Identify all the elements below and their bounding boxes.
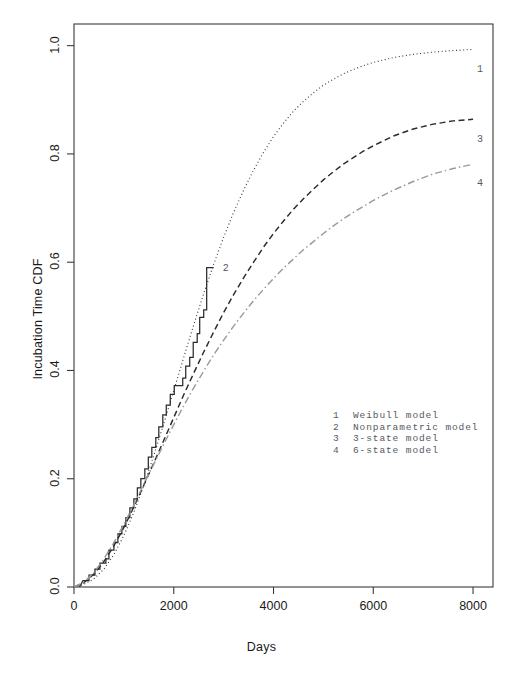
plot-frame: [74, 24, 493, 587]
y-tick-label: 0.4: [48, 339, 62, 399]
y-tick-label: 0.2: [48, 448, 62, 508]
legend-label: Weibull model: [353, 410, 439, 421]
curve-tag-2: 2: [223, 263, 229, 274]
y-tick-label: 0.8: [48, 123, 62, 183]
series-line-3: [74, 119, 473, 587]
y-tick-label: 0.0: [48, 556, 62, 616]
x-tick-label: 4000: [244, 599, 304, 613]
y-tick-label: 1.0: [48, 15, 62, 75]
curve-tag-3: 3: [477, 134, 483, 145]
series-line-4: [74, 164, 473, 587]
plot-canvas: [0, 0, 523, 674]
x-axis-label: Days: [0, 640, 523, 654]
legend-entry: 1Weibull model: [333, 410, 478, 422]
legend: 1Weibull model2Nonparametric model33-sta…: [333, 410, 478, 456]
x-tick-label: 8000: [443, 599, 503, 613]
legend-key: 1: [333, 410, 353, 422]
curve-tag-4: 4: [477, 178, 483, 189]
legend-key: 4: [333, 445, 353, 457]
legend-entry: 2Nonparametric model: [333, 422, 478, 434]
y-tick-label: 0.6: [48, 231, 62, 291]
x-tick-label: 2000: [144, 599, 204, 613]
curve-tag-1: 1: [477, 64, 483, 75]
legend-key: 2: [333, 422, 353, 434]
legend-entry: 46-state model: [333, 445, 478, 457]
legend-key: 3: [333, 433, 353, 445]
series-line-2: [79, 268, 213, 587]
x-tick-label: 6000: [343, 599, 403, 613]
y-axis-label: Incubation Time CDF: [31, 219, 45, 419]
legend-label: 3-state model: [353, 433, 439, 444]
legend-label: Nonparametric model: [353, 422, 478, 433]
legend-label: 6-state model: [353, 445, 439, 456]
legend-entry: 33-state model: [333, 433, 478, 445]
incubation-time-cdf-figure: Incubation Time CDF Days 020004000600080…: [0, 0, 523, 674]
